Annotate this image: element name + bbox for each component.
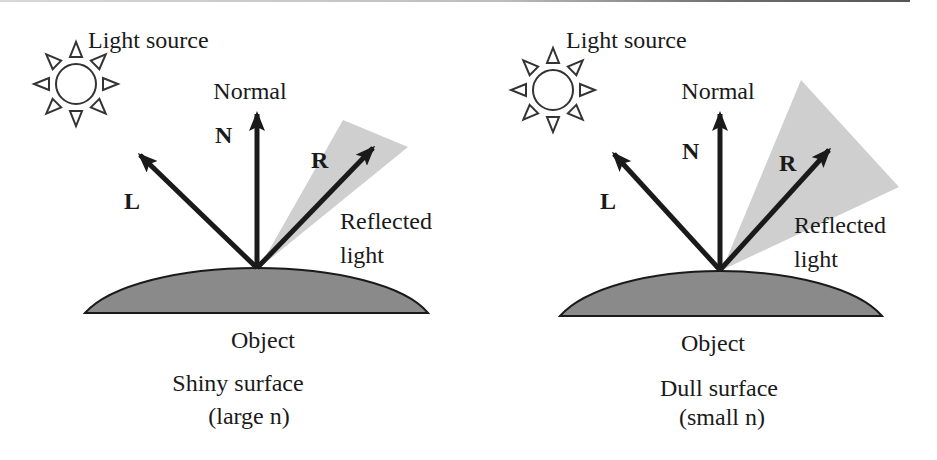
vector-n-label: N bbox=[215, 122, 232, 148]
vector-l-label: L bbox=[600, 188, 616, 214]
exponent-label: (large n) bbox=[208, 403, 290, 429]
object-label: Object bbox=[681, 330, 745, 356]
object-shape bbox=[85, 268, 428, 313]
vector-r-label: R bbox=[779, 150, 796, 176]
light-source-label: Light source bbox=[88, 27, 209, 53]
reflected-light-label: light bbox=[794, 246, 838, 272]
surface-type-label: Dull surface bbox=[660, 375, 778, 401]
light-vector-arrow bbox=[614, 154, 720, 270]
panel-dull bbox=[494, 31, 899, 316]
reflected-label: Reflected bbox=[794, 212, 886, 238]
light-vector-arrow bbox=[140, 155, 257, 268]
surface-type-label: Shiny surface bbox=[172, 370, 303, 396]
vector-r-label: R bbox=[311, 147, 328, 173]
light-source-label: Light source bbox=[566, 27, 687, 53]
reflected-light-label: light bbox=[340, 242, 384, 268]
vector-l-label: L bbox=[124, 188, 140, 214]
normal-label: Normal bbox=[681, 78, 754, 104]
vector-n-label: N bbox=[682, 138, 699, 164]
panel-shiny bbox=[17, 25, 428, 313]
reflected-label: Reflected bbox=[340, 208, 432, 234]
exponent-label: (small n) bbox=[679, 404, 765, 430]
normal-label: Normal bbox=[213, 78, 286, 104]
object-shape bbox=[560, 271, 882, 316]
object-label: Object bbox=[231, 327, 295, 353]
